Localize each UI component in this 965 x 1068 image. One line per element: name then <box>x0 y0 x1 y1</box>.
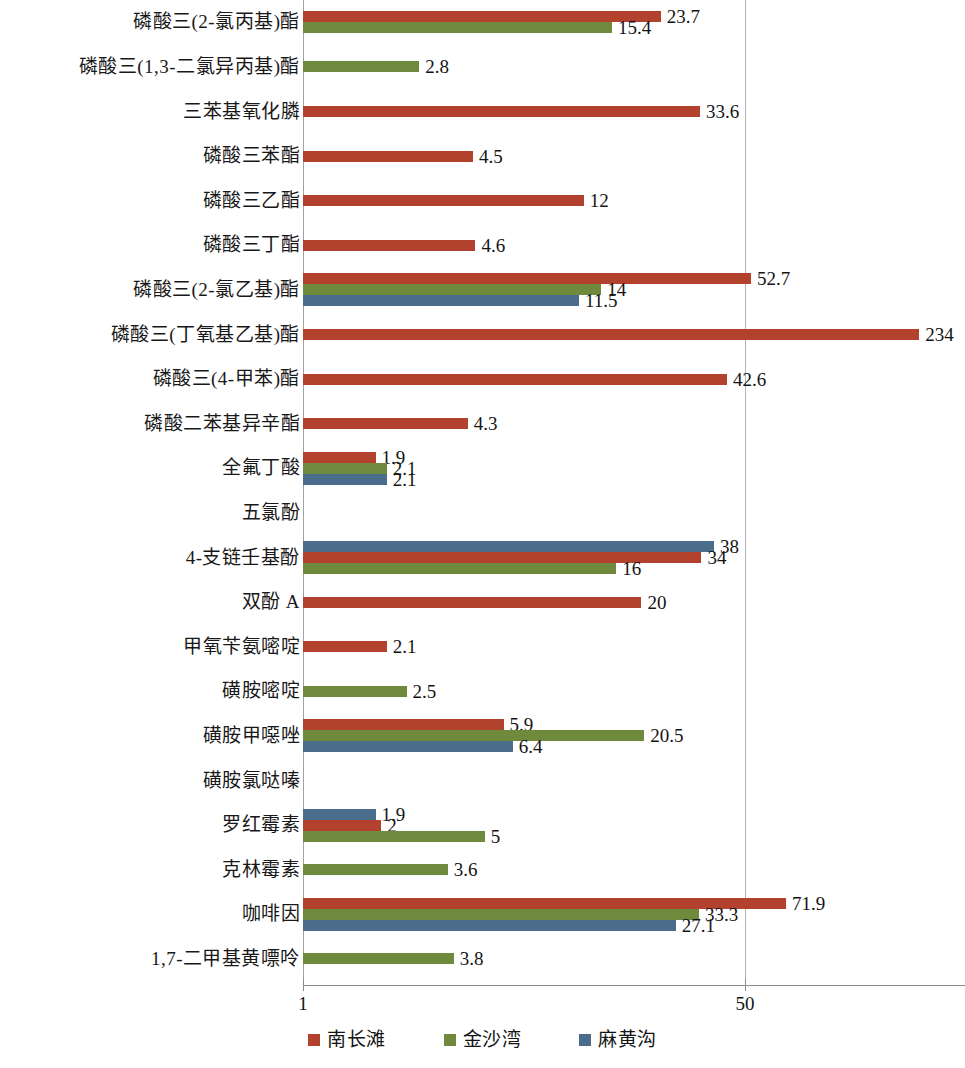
category-label: 全氟丁酸 <box>222 458 300 477</box>
category-label: 磷酸三(1,3-二氯异丙基)酯 <box>79 57 300 76</box>
bar <box>303 820 381 831</box>
bar <box>303 329 919 340</box>
bar <box>303 61 419 72</box>
bar <box>303 273 751 284</box>
bar <box>303 597 641 608</box>
category-label: 磷酸三乙酯 <box>203 191 301 210</box>
category-label: 磺胺氯哒嗪 <box>203 771 301 790</box>
bar-value-label: 20.5 <box>650 726 683 745</box>
bar <box>303 864 448 875</box>
bar-value-label: 6.4 <box>519 737 543 756</box>
bar <box>303 106 700 117</box>
bar <box>303 240 475 251</box>
bar <box>303 295 579 306</box>
bar-value-label: 234 <box>925 325 954 344</box>
bar-value-label: 20 <box>647 593 666 612</box>
bar-value-label: 42.6 <box>733 370 766 389</box>
category-label: 咖啡因 <box>242 904 301 923</box>
bar <box>303 195 584 206</box>
bar <box>303 11 661 22</box>
bar <box>303 741 513 752</box>
bar <box>303 719 504 730</box>
category-label: 磺胺甲噁唑 <box>203 726 301 745</box>
bar <box>303 374 727 385</box>
chart-legend: 南长滩金沙湾麻黄沟 <box>0 1030 965 1049</box>
legend-item[interactable]: 麻黄沟 <box>579 1030 657 1049</box>
category-label: 三苯基氧化膦 <box>183 102 300 121</box>
bar-value-label: 12 <box>590 191 609 210</box>
legend-swatch-icon <box>308 1034 320 1046</box>
x-axis-tick-label: 1 <box>298 994 308 1013</box>
category-label: 磷酸三(4-甲苯)酯 <box>153 369 300 388</box>
bar <box>303 22 612 33</box>
category-label: 1,7-二甲基黄嘌呤 <box>151 949 300 968</box>
bar-value-label: 2.8 <box>425 57 449 76</box>
x-axis-tick-label: 50 <box>736 994 755 1013</box>
legend-swatch-icon <box>579 1034 591 1046</box>
bar-value-label: 16 <box>622 559 641 578</box>
category-label: 罗红霉素 <box>222 815 300 834</box>
plot-area: 23.715.42.833.64.5124.652.71411.523442.6… <box>0 0 965 985</box>
bar <box>303 686 407 697</box>
legend-item[interactable]: 金沙湾 <box>444 1030 522 1049</box>
category-label: 磺胺嘧啶 <box>222 681 300 700</box>
bar <box>303 151 473 162</box>
bar-value-label: 5 <box>491 827 501 846</box>
bar <box>303 920 676 931</box>
bar-chart: 23.715.42.833.64.5124.652.71411.523442.6… <box>0 0 965 1068</box>
category-label: 五氯酚 <box>242 503 301 522</box>
bar-value-label: 2.1 <box>393 637 417 656</box>
bar-value-label: 3.6 <box>454 860 478 879</box>
bar <box>303 474 387 485</box>
category-label: 4-支链壬基酚 <box>186 548 300 567</box>
legend-label: 南长滩 <box>327 1030 386 1049</box>
legend-item[interactable]: 南长滩 <box>308 1030 386 1049</box>
bar <box>303 463 387 474</box>
category-label: 磷酸三(丁氧基乙基)酯 <box>111 325 300 344</box>
bar <box>303 284 601 295</box>
category-label: 磷酸三(2-氯丙基)酯 <box>133 12 300 31</box>
category-label: 双酚 A <box>242 592 300 611</box>
bar-value-label: 23.7 <box>667 7 700 26</box>
bar-value-label: 52.7 <box>757 269 790 288</box>
category-label: 磷酸三丁酯 <box>203 235 301 254</box>
category-label: 磷酸二苯基异辛酯 <box>144 414 300 433</box>
bar <box>303 730 644 741</box>
bar <box>303 418 468 429</box>
bar <box>303 552 701 563</box>
category-label: 磷酸三苯酯 <box>203 146 301 165</box>
category-label: 克林霉素 <box>222 860 300 879</box>
bar-value-label: 71.9 <box>792 894 825 913</box>
bar-value-label: 4.6 <box>481 236 505 255</box>
bar-value-label: 33.6 <box>706 102 739 121</box>
bar <box>303 809 376 820</box>
legend-swatch-icon <box>444 1034 456 1046</box>
category-label: 磷酸三(2-氯乙基)酯 <box>133 280 300 299</box>
bar <box>303 452 376 463</box>
bar <box>303 909 699 920</box>
bar-value-label: 11.5 <box>585 291 618 310</box>
bar-value-label: 4.5 <box>479 147 503 166</box>
bar <box>303 831 485 842</box>
bar-value-label: 2.5 <box>413 682 437 701</box>
bar <box>303 541 714 552</box>
x-axis-tick <box>745 979 746 991</box>
bar <box>303 953 454 964</box>
x-axis-line <box>303 985 965 986</box>
bar-value-label: 4.3 <box>474 414 498 433</box>
legend-label: 麻黄沟 <box>598 1030 657 1049</box>
bar <box>303 563 616 574</box>
legend-label: 金沙湾 <box>463 1030 522 1049</box>
bar-value-label: 2.1 <box>393 470 417 489</box>
bar-value-label: 15.4 <box>618 18 651 37</box>
x-axis-tick <box>303 979 304 991</box>
bar <box>303 641 387 652</box>
bar-value-label: 34 <box>707 548 726 567</box>
bar-value-label: 27.1 <box>682 916 715 935</box>
category-label: 甲氧苄氨嘧啶 <box>183 637 300 656</box>
gridline <box>745 0 746 985</box>
bar-value-label: 3.8 <box>460 949 484 968</box>
